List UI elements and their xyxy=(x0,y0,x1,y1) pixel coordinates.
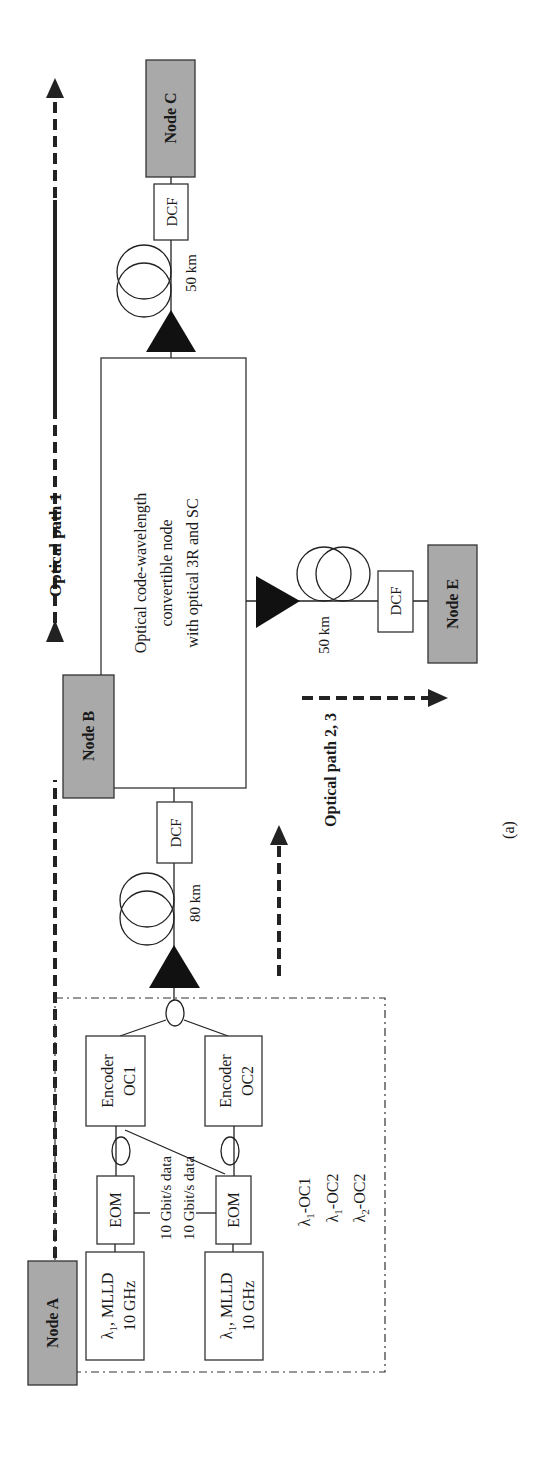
coupler-icon xyxy=(166,1000,184,1026)
fiber-spool-icon xyxy=(297,547,370,601)
encoder-oc1-line1: Encoder xyxy=(99,1054,116,1108)
arrowhead-icon xyxy=(46,78,64,98)
dcf-a-to-b-label: DCF xyxy=(168,818,184,847)
encoder-oc2-line1: Encoder xyxy=(217,1054,234,1108)
encoder-oc2-line2: OC2 xyxy=(239,1066,256,1096)
eom-2-label: EOM xyxy=(225,1192,242,1228)
splitter-icon xyxy=(221,1137,239,1165)
amplifier-icon xyxy=(146,310,196,352)
optical-path-1-label: Optical path 1 xyxy=(46,493,65,597)
optical-network-diagram: Optical path 1 Node C DCF 50 km Optical … xyxy=(0,0,540,1466)
figure-caption: (a) xyxy=(500,821,518,839)
distance-a-to-b: 80 km xyxy=(187,884,203,922)
central-node-line3: with optical 3R and SC xyxy=(184,498,202,647)
dcf-b-to-e-label: DCF xyxy=(388,586,404,615)
amplifier-icon xyxy=(256,576,300,628)
dcf-b-to-c-label: DCF xyxy=(164,197,180,226)
amplifier-icon xyxy=(149,945,200,988)
arrowhead-icon xyxy=(270,825,288,845)
optical-path-23-arrow xyxy=(270,689,448,976)
central-node-line2: convertible node xyxy=(158,519,175,626)
code-lambda1-oc2: λ1-OC2 xyxy=(324,1174,344,1223)
fiber-spool-icon xyxy=(117,245,171,317)
splitter-icon xyxy=(112,1137,130,1165)
data-rate-1: 10 Gbit/s data xyxy=(158,1156,174,1240)
cross-connection xyxy=(125,1130,225,1174)
fiber-spool-icon xyxy=(120,873,174,945)
distance-b-to-c: 50 km xyxy=(183,254,199,292)
eom-1-label: EOM xyxy=(107,1192,124,1228)
node-c-label: Node C xyxy=(162,92,179,143)
central-node-line1: Optical code-wavelength xyxy=(132,493,150,653)
optical-path-1-arrowhead-mid xyxy=(46,620,64,642)
optical-path-23-label: Optical path 2, 3 xyxy=(322,713,340,827)
node-e-label: Node E xyxy=(444,579,461,629)
node-a-label: Node A xyxy=(44,1297,61,1348)
distance-b-to-e: 50 km xyxy=(316,616,332,654)
data-rate-2: 10 Gbit/s data xyxy=(181,1156,197,1240)
code-lambda1-oc1: λ1-OC1 xyxy=(296,1178,316,1227)
arrowhead-icon xyxy=(46,620,64,642)
node-b-label: Node B xyxy=(80,711,97,762)
laser-2-line2: 10 GHz xyxy=(240,1281,257,1331)
encoder-oc1-line2: OC1 xyxy=(121,1066,138,1096)
arrowhead-icon xyxy=(428,689,448,707)
laser-1-line2: 10 GHz xyxy=(121,1281,138,1331)
code-lambda2-oc2: λ2-OC2 xyxy=(351,1174,371,1223)
